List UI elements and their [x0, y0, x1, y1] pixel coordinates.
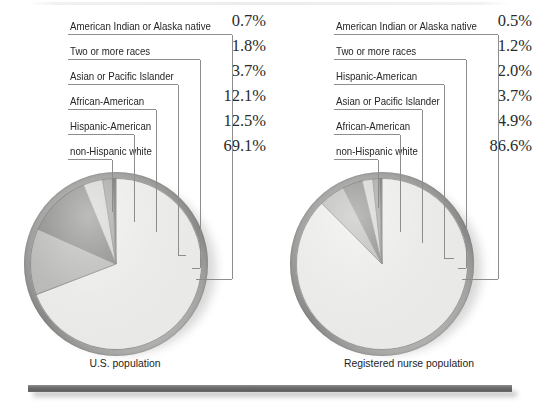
pie-chart-registered-nurse-population	[266, 168, 532, 358]
legend-row: 1.8%Two or more races	[0, 35, 266, 60]
legend-percentage-value: 3.7%	[470, 86, 532, 106]
legend-label-wrap: African-American	[334, 115, 400, 135]
legend-label-wrap: Two or more races	[334, 40, 466, 60]
legend-percentage-value: 1.2%	[470, 36, 532, 56]
chart-caption-registered-nurse-population: Registered nurse population	[276, 358, 537, 369]
legend-category-label: non-Hispanic white	[70, 146, 152, 157]
legend-row: 3.7%Asian or Pacific Islander	[0, 60, 266, 85]
bottom-rule-group	[0, 385, 532, 401]
legend-percentage-value: 12.5%	[204, 111, 266, 131]
legend-percentage-value: 1.8%	[204, 36, 266, 56]
legend-category-label: Two or more races	[70, 46, 150, 57]
bottom-divider-rule	[28, 385, 512, 392]
pie-face	[296, 178, 468, 350]
chart-panel-registered-nurse-population: 0.5%American Indian or Alaska native1.2%…	[266, 0, 532, 384]
legend-row: 12.5%Hispanic-American	[0, 110, 266, 135]
legend-category-label: Hispanic-American	[70, 121, 151, 132]
legend-leader-underline	[334, 159, 378, 160]
legend-us-population: 0.7%American Indian or Alaska native1.8%…	[0, 10, 266, 160]
legend-category-label: Hispanic-American	[336, 71, 417, 82]
chart-caption-us-population: U.S. population	[0, 358, 258, 369]
legend-row: 0.7%American Indian or Alaska native	[0, 10, 266, 35]
legend-category-label: Asian or Pacific Islander	[336, 96, 440, 107]
legend-category-label: African-American	[336, 121, 410, 132]
legend-label-wrap: Asian or Pacific Islander	[68, 65, 178, 85]
legend-label-wrap: non-Hispanic white	[334, 140, 378, 160]
legend-row: 69.1%non-Hispanic white	[0, 135, 266, 160]
legend-registered-nurse-population: 0.5%American Indian or Alaska native1.2%…	[266, 10, 532, 160]
legend-percentage-value: 3.7%	[204, 61, 266, 81]
legend-label-wrap: Two or more races	[68, 40, 200, 60]
legend-label-wrap: non-Hispanic white	[68, 140, 112, 160]
pie-slices-svg	[30, 178, 202, 350]
legend-percentage-value: 86.6%	[470, 136, 532, 156]
legend-row: 12.1%African-American	[0, 85, 266, 110]
legend-label-wrap: African-American	[68, 90, 156, 110]
legend-percentage-value: 12.1%	[204, 86, 266, 106]
legend-category-label: Asian or Pacific Islander	[70, 71, 174, 82]
legend-category-label: Two or more races	[336, 46, 416, 57]
legend-row: 4.9%African-American	[266, 110, 532, 135]
legend-category-label: African-American	[70, 96, 144, 107]
chart-panel-us-population: 0.7%American Indian or Alaska native1.8%…	[0, 0, 266, 384]
legend-percentage-value: 2.0%	[470, 61, 532, 81]
legend-label-wrap: Hispanic-American	[334, 65, 444, 85]
legend-label-wrap: American Indian or Alaska native	[68, 15, 232, 35]
legend-category-label: non-Hispanic white	[336, 146, 418, 157]
pie-chart-us-population	[0, 168, 266, 358]
legend-row: 3.7%Asian or Pacific Islander	[266, 85, 532, 110]
legend-label-wrap: Hispanic-American	[68, 115, 134, 135]
legend-percentage-value: 69.1%	[204, 136, 266, 156]
legend-percentage-value: 4.9%	[470, 111, 532, 131]
legend-category-label: American Indian or Alaska native	[70, 21, 211, 32]
legend-row: 0.5%American Indian or Alaska native	[266, 10, 532, 35]
legend-row: 86.6%non-Hispanic white	[266, 135, 532, 160]
legend-row: 1.2%Two or more races	[266, 35, 532, 60]
legend-label-wrap: Asian or Pacific Islander	[334, 90, 422, 110]
legend-label-wrap: American Indian or Alaska native	[334, 15, 498, 35]
pie-slices-svg	[296, 178, 468, 350]
legend-leader-underline	[68, 159, 112, 160]
legend-row: 2.0%Hispanic-American	[266, 60, 532, 85]
legend-category-label: American Indian or Alaska native	[336, 21, 477, 32]
pie-face	[30, 178, 202, 350]
